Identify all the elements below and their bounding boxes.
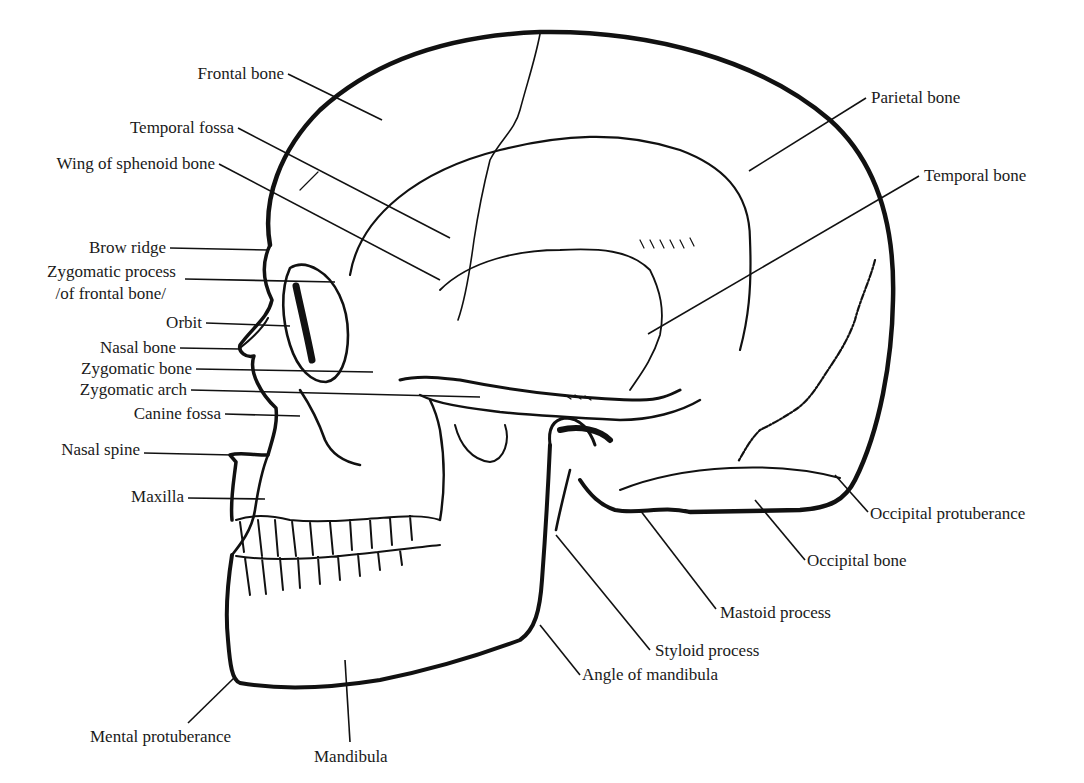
leader-wing-sphenoid xyxy=(219,164,440,280)
leader-styloid-process xyxy=(556,535,650,650)
leader-angle-mandibula xyxy=(540,625,580,675)
upper-teeth xyxy=(236,516,440,556)
leader-temporal-bone xyxy=(648,176,919,334)
leader-zygomatic-bone xyxy=(196,369,373,372)
label-mental-protuberance: Mental protuberance xyxy=(90,727,231,747)
leader-nasal-bone xyxy=(180,348,240,349)
leader-zygomatic-arch xyxy=(191,390,480,397)
label-zygomatic-arch: Zygomatic arch xyxy=(20,380,187,400)
leader-nasal-spine xyxy=(144,453,233,455)
mandible-outline xyxy=(227,445,550,687)
lower-teeth xyxy=(236,545,440,595)
label-wing-of-sphenoid-bone: Wing of sphenoid bone xyxy=(10,154,215,174)
cranium-outline xyxy=(268,32,893,512)
leader-mandibula xyxy=(345,660,350,742)
label-maxilla: Maxilla xyxy=(80,487,184,507)
leader-canine-fossa xyxy=(225,414,300,416)
leader-orbit xyxy=(206,323,290,326)
leader-mental-protuberance xyxy=(188,677,235,723)
skull-diagram: Frontal bone Temporal fossa Wing of sphe… xyxy=(0,0,1084,783)
label-orbit: Orbit xyxy=(100,313,202,333)
label-occipital-protuberance: Occipital protuberance xyxy=(870,504,1025,524)
label-zygomatic-bone: Zygomatic bone xyxy=(20,359,192,379)
label-nasal-bone: Nasal bone xyxy=(40,338,176,358)
leader-zygomatic-process xyxy=(185,279,335,282)
leader-maxilla xyxy=(188,498,265,499)
label-nasal-spine: Nasal spine xyxy=(10,440,140,460)
label-parietal-bone: Parietal bone xyxy=(871,88,960,108)
label-mastoid-process: Mastoid process xyxy=(720,603,831,623)
label-zygomatic-process: Zygomatic process xyxy=(10,262,176,282)
label-canine-fossa: Canine fossa xyxy=(60,404,221,424)
label-angle-of-mandibula: Angle of mandibula xyxy=(582,665,718,685)
styloid xyxy=(556,470,570,530)
label-occipital-bone: Occipital bone xyxy=(807,551,907,571)
label-temporal-fossa: Temporal fossa xyxy=(60,118,234,138)
label-styloid-process: Styloid process xyxy=(655,641,759,661)
label-mandibula: Mandibula xyxy=(314,747,388,767)
label-brow-ridge: Brow ridge xyxy=(40,238,166,258)
leader-brow-ridge xyxy=(170,248,268,250)
label-temporal-bone: Temporal bone xyxy=(924,166,1026,186)
leader-occipital-protuberance xyxy=(835,475,868,512)
label-zygomatic-process-sub: /of frontal bone/ xyxy=(10,284,166,304)
leader-mastoid-process xyxy=(640,510,716,609)
leader-parietal-bone xyxy=(749,98,866,171)
leader-frontal-bone xyxy=(288,74,382,120)
label-frontal-bone: Frontal bone xyxy=(120,64,284,84)
